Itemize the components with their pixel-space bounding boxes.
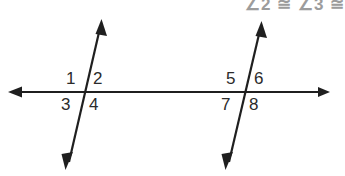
right-transversal-bottom-arrowhead	[222, 152, 234, 170]
left-transversal-top-arrowhead	[96, 19, 108, 36]
right-transversal-top-arrowhead	[256, 21, 268, 38]
horizontal-left-arrowhead	[8, 87, 22, 98]
angle-label-3: 3	[61, 96, 70, 113]
congruence-caption: ∠2 ≅ ∠3 ≅	[245, 0, 345, 15]
angle-label-7: 7	[221, 96, 230, 113]
angle-label-4: 4	[89, 96, 98, 113]
left-transversal-bottom-arrowhead	[62, 152, 74, 170]
horizontal-line	[8, 87, 330, 98]
angle-label-1: 1	[66, 70, 75, 87]
angle-label-8: 8	[249, 96, 258, 113]
angle-label-2: 2	[93, 70, 102, 87]
angle-label-6: 6	[254, 70, 263, 87]
horizontal-right-arrowhead	[318, 87, 330, 97]
angle-label-5: 5	[226, 70, 235, 87]
